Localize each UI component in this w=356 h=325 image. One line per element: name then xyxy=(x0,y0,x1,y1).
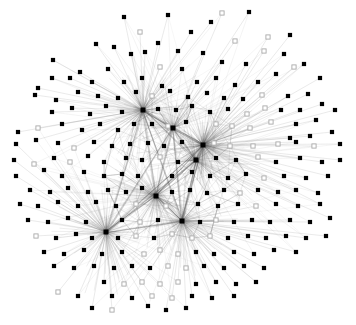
graph-node-filled[interactable] xyxy=(288,33,292,37)
graph-node-filled[interactable] xyxy=(302,62,306,66)
graph-node-filled[interactable] xyxy=(88,112,92,116)
graph-node-filled[interactable] xyxy=(112,266,116,270)
graph-node-filled[interactable] xyxy=(124,190,128,194)
graph-node-filled[interactable] xyxy=(76,204,80,208)
graph-node-hollow[interactable] xyxy=(138,30,142,34)
graph-node-filled[interactable] xyxy=(220,60,224,64)
graph-node-filled[interactable] xyxy=(222,266,226,270)
graph-node-filled[interactable] xyxy=(184,120,188,124)
graph-node-filled[interactable] xyxy=(214,280,218,284)
graph-node-hollow[interactable] xyxy=(68,160,72,164)
graph-node-filled[interactable] xyxy=(314,118,318,122)
graph-node-filled[interactable] xyxy=(102,160,106,164)
graph-node-filled[interactable] xyxy=(134,90,138,94)
graph-node-hollow[interactable] xyxy=(36,126,40,130)
graph-node-filled[interactable] xyxy=(274,72,278,76)
graph-node-hollow[interactable] xyxy=(150,94,154,98)
graph-node-hollow[interactable] xyxy=(276,142,280,146)
graph-node-filled[interactable] xyxy=(294,140,298,144)
graph-node-hollow[interactable] xyxy=(158,155,162,159)
graph-node-hollow[interactable] xyxy=(170,232,174,236)
graph-node-filled[interactable] xyxy=(190,170,194,174)
graph-node-filled[interactable] xyxy=(86,154,90,158)
graph-node-hollow[interactable] xyxy=(269,120,273,124)
graph-node-filled[interactable] xyxy=(282,52,286,56)
graph-node-hollow[interactable] xyxy=(256,155,260,159)
graph-node-filled[interactable] xyxy=(210,296,214,300)
graph-node-filled[interactable] xyxy=(282,174,286,178)
graph-node-filled[interactable] xyxy=(42,250,46,254)
graph-node-filled[interactable] xyxy=(294,122,298,126)
graph-node-filled[interactable] xyxy=(256,188,260,192)
graph-node-hollow[interactable] xyxy=(262,176,266,180)
graph-node-filled[interactable] xyxy=(28,188,32,192)
graph-node-filled[interactable] xyxy=(143,50,147,54)
graph-node-filled[interactable] xyxy=(74,232,78,236)
graph-node-filled[interactable] xyxy=(316,191,320,195)
graph-node-filled[interactable] xyxy=(246,234,250,238)
graph-node-filled[interactable] xyxy=(76,90,80,94)
graph-node-filled[interactable] xyxy=(264,236,268,240)
graph-node-filled[interactable] xyxy=(268,220,272,224)
graph-node-hollow[interactable] xyxy=(158,282,162,286)
graph-node-filled[interactable] xyxy=(250,218,254,222)
graph-node-hollow[interactable] xyxy=(158,65,162,69)
graph-node-hollow[interactable] xyxy=(158,248,162,252)
graph-node-filled[interactable] xyxy=(195,80,199,84)
graph-node-filled[interactable] xyxy=(140,186,144,190)
graph-node-filled[interactable] xyxy=(56,141,60,145)
graph-node-hollow[interactable] xyxy=(170,296,174,300)
graph-node-hollow[interactable] xyxy=(72,146,76,150)
graph-node-filled[interactable] xyxy=(116,128,120,132)
graph-node-filled[interactable] xyxy=(254,280,258,284)
graph-node-filled[interactable] xyxy=(298,156,302,160)
graph-node-filled[interactable] xyxy=(124,156,128,160)
graph-node-filled[interactable] xyxy=(333,108,337,112)
graph-node-filled[interactable] xyxy=(201,51,205,55)
graph-node-filled[interactable] xyxy=(92,264,96,268)
graph-node-filled[interactable] xyxy=(232,220,236,224)
graph-node-filled[interactable] xyxy=(150,122,154,126)
graph-node-filled[interactable] xyxy=(98,122,102,126)
graph-node-filled[interactable] xyxy=(233,83,237,87)
graph-node-filled[interactable] xyxy=(212,252,216,256)
graph-node-hollow[interactable] xyxy=(176,252,180,256)
graph-node-filled[interactable] xyxy=(34,138,38,142)
graph-node-hollow[interactable] xyxy=(110,308,114,312)
graph-node-hollow[interactable] xyxy=(164,204,168,208)
graph-node-filled[interactable] xyxy=(320,102,324,106)
graph-node-filled[interactable] xyxy=(222,96,226,100)
graph-node-filled[interactable] xyxy=(66,216,70,220)
graph-node-filled[interactable] xyxy=(136,174,140,178)
graph-node-filled[interactable] xyxy=(174,108,178,112)
graph-node-filled[interactable] xyxy=(96,94,100,98)
graph-node-filled[interactable] xyxy=(190,294,194,298)
graph-node-filled[interactable] xyxy=(160,84,164,88)
graph-node-filled[interactable] xyxy=(94,200,98,204)
graph-node-hub[interactable] xyxy=(201,143,206,148)
graph-node-filled[interactable] xyxy=(176,160,180,164)
graph-node-filled[interactable] xyxy=(52,264,56,268)
graph-node-filled[interactable] xyxy=(16,130,20,134)
graph-node-hollow[interactable] xyxy=(212,141,216,145)
graph-node-filled[interactable] xyxy=(232,250,236,254)
graph-node-filled[interactable] xyxy=(286,94,290,98)
graph-node-filled[interactable] xyxy=(110,294,114,298)
graph-node-filled[interactable] xyxy=(140,76,144,80)
graph-node-filled[interactable] xyxy=(318,76,322,80)
graph-node-filled[interactable] xyxy=(190,104,194,108)
graph-node-filled[interactable] xyxy=(12,158,16,162)
graph-node-hollow[interactable] xyxy=(140,280,144,284)
graph-node-filled[interactable] xyxy=(102,280,106,284)
graph-node-filled[interactable] xyxy=(304,176,308,180)
graph-node-hollow[interactable] xyxy=(122,282,126,286)
graph-node-filled[interactable] xyxy=(279,108,283,112)
graph-node-filled[interactable] xyxy=(90,80,94,84)
graph-node-hollow[interactable] xyxy=(142,252,146,256)
graph-node-filled[interactable] xyxy=(284,234,288,238)
graph-node-filled[interactable] xyxy=(90,236,94,240)
graph-node-filled[interactable] xyxy=(304,236,308,240)
graph-node-filled[interactable] xyxy=(208,110,212,114)
graph-node-filled[interactable] xyxy=(205,191,209,195)
graph-node-filled[interactable] xyxy=(42,168,46,172)
